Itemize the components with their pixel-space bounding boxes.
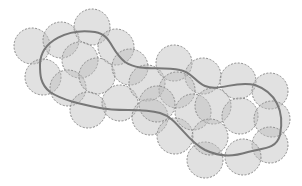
disk [225, 139, 261, 175]
disk [192, 119, 228, 155]
disk [222, 98, 258, 134]
disk [70, 92, 106, 128]
diagram-canvas [0, 0, 302, 186]
disk-cover-diagram [0, 0, 302, 186]
